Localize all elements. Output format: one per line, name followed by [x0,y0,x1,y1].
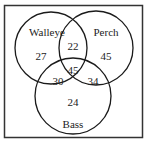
bass-only-value: 24 [68,96,80,108]
perch-only-value: 45 [101,50,113,62]
walleye-label: Walleye [29,26,65,38]
venn-diagram: Walleye Perch Bass 27 45 24 22 30 34 45 [0,0,146,141]
walleye-bass-value: 30 [53,75,65,87]
bass-label: Bass [63,118,84,130]
perch-label: Perch [93,26,119,38]
walleye-only-value: 27 [36,50,48,62]
walleye-perch-value: 22 [68,40,79,52]
all-three-value: 45 [68,64,80,76]
perch-bass-value: 34 [88,75,100,87]
